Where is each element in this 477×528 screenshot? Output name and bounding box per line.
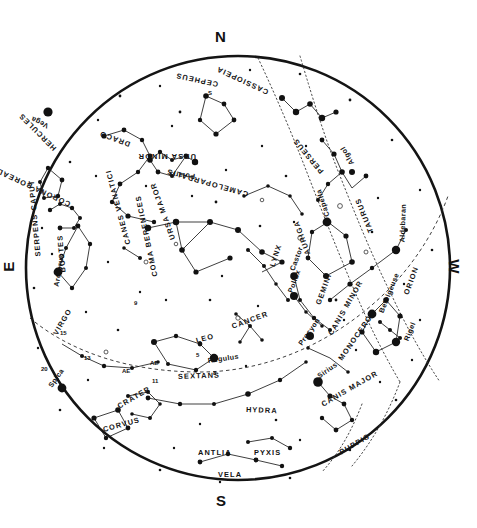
ecliptic-label: 13 [84, 355, 91, 361]
ecliptic-label: AE [150, 360, 158, 366]
ecliptic-label: S [208, 90, 212, 96]
ecliptic-label: 5 [196, 352, 199, 358]
constellation-label: ANTLIA [198, 448, 232, 457]
horizon-circle [26, 56, 450, 480]
star-label: Aldebaran [398, 204, 408, 243]
ecliptic-label: 20 [41, 366, 48, 372]
constellation-label: VELA [218, 470, 242, 479]
ecliptic-label: 11 [152, 378, 158, 384]
ecliptic-label: 8 [213, 370, 216, 376]
constellation-label: URSA MINOR [138, 152, 196, 161]
ecliptic-label: 9 [134, 300, 137, 306]
ecliptic-label: AE [122, 368, 130, 374]
cardinal-west: W [446, 259, 463, 274]
constellation-label: HYDRA [246, 405, 278, 415]
cardinal-north: N [215, 28, 226, 45]
cardinal-east: E [0, 261, 17, 272]
ecliptic-label: 15 [60, 330, 67, 336]
constellation-label: PYXIS [254, 448, 281, 457]
cardinal-south: S [216, 492, 227, 509]
star-chart: N S E W CEPHEUSCASSIOPEIADRACOURSA MINOR… [0, 0, 477, 528]
